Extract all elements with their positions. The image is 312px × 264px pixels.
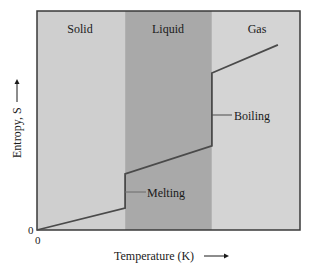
y-axis-arrow-icon (15, 79, 20, 102)
annotation-melting: Melting (147, 186, 185, 200)
x-axis-label: Temperature (K) (114, 249, 194, 263)
region-label-solid: Solid (67, 22, 92, 36)
x-axis-arrow-icon (204, 254, 229, 259)
chart-canvas: Solid Liquid Gas Melting Boiling 0 0 Tem… (0, 0, 312, 264)
annotation-boiling: Boiling (234, 109, 270, 123)
region-label-liquid: Liquid (152, 22, 184, 36)
region-label-gas: Gas (248, 22, 267, 36)
region-solid-band (37, 11, 125, 230)
x-origin-label: 0 (35, 234, 41, 246)
y-axis-label: Entropy, S (10, 107, 24, 158)
y-origin-label: 0 (28, 224, 34, 236)
